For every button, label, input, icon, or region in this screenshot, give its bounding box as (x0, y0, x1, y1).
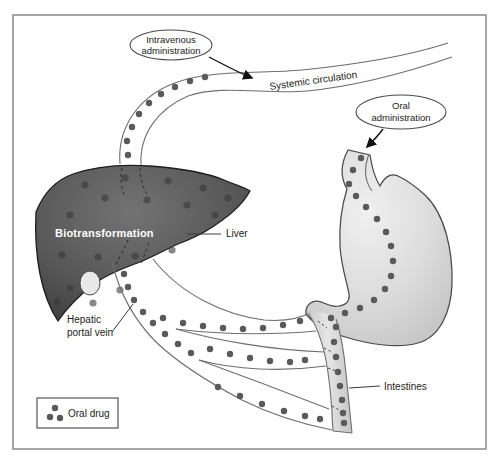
drug-dot (47, 414, 53, 420)
drug-dot (237, 393, 243, 399)
drug-dot (211, 211, 218, 218)
svg-text:portal vein: portal vein (67, 327, 113, 338)
drug-dot (317, 416, 323, 422)
drug-dot (267, 358, 273, 364)
drug-dot (101, 194, 108, 201)
drug-dot (287, 359, 293, 365)
drug-dot (160, 315, 166, 321)
drug-dot (89, 299, 96, 306)
drug-dot (140, 309, 146, 315)
drug-dot (333, 324, 339, 330)
drug-dot (328, 315, 334, 321)
drug-dot (358, 155, 364, 161)
drug-dot (150, 320, 156, 326)
drug-dot (58, 251, 65, 258)
svg-text:Intravenous: Intravenous (146, 34, 196, 45)
drug-dot (66, 211, 73, 218)
drug-dot (129, 124, 135, 130)
drug-dot (146, 100, 152, 106)
drug-dot (202, 74, 208, 80)
drug-dot (341, 420, 347, 426)
intravenous-administration-bubble: Intravenous administration (130, 30, 212, 60)
drug-dot (94, 253, 101, 260)
drug-dot (350, 167, 356, 173)
drug-dot (66, 284, 73, 291)
svg-text:administration: administration (371, 112, 430, 123)
drug-dot (220, 325, 226, 331)
drug-dot (346, 181, 352, 187)
drug-dot (125, 152, 131, 158)
drug-dot (57, 415, 63, 421)
drug-dot (136, 111, 142, 117)
svg-text:administration: administration (141, 45, 200, 56)
drug-dot (187, 78, 193, 84)
intestines-label: Intestines (384, 381, 427, 392)
drug-dot (388, 273, 394, 279)
drug-dot (207, 346, 213, 352)
drug-dot (259, 401, 265, 407)
oral-administration-bubble: Oral administration (356, 95, 446, 129)
drug-dot (53, 298, 60, 305)
drug-dot (180, 320, 186, 326)
drug-dot (175, 341, 181, 347)
drug-dot (390, 258, 396, 264)
drug-dot (158, 91, 164, 97)
drug-dot (363, 204, 369, 210)
drug-dot (374, 216, 380, 222)
drug-dot (339, 397, 345, 403)
drug-dot (335, 369, 341, 375)
drug-dot (125, 284, 131, 290)
drug-dot (302, 357, 308, 363)
drug-dot (188, 350, 194, 356)
drug-dot (52, 405, 58, 411)
drug-dot (172, 84, 178, 90)
drug-dot (131, 297, 137, 303)
drug-dot (200, 323, 206, 329)
drug-dot (388, 243, 394, 249)
drug-dot (357, 305, 363, 311)
drug-dot (143, 196, 150, 203)
drug-dot (260, 325, 266, 331)
drug-dot (281, 408, 287, 414)
drug-dot (227, 351, 233, 357)
drug-dot (337, 383, 343, 389)
drug-dot (224, 194, 231, 201)
drug-dot (240, 326, 246, 332)
drug-dot (81, 181, 88, 188)
legend-box: Oral drug (37, 398, 118, 428)
first-pass-metabolism-diagram: Biotransformation Liver Intestines He (0, 0, 498, 471)
drug-dot (297, 318, 303, 324)
drug-dot (131, 252, 138, 259)
drug-dot (162, 331, 168, 337)
drug-dot (340, 410, 346, 416)
biotransformation-label: Biotransformation (55, 227, 154, 239)
drug-dot (333, 354, 339, 360)
gallbladder-shape (80, 271, 100, 295)
drug-dot (121, 174, 128, 181)
drug-dot (215, 384, 221, 390)
drug-dot (331, 339, 337, 345)
drug-dot (383, 229, 389, 235)
drug-dot (199, 184, 206, 191)
drug-dot (247, 355, 253, 361)
drug-dot (280, 322, 286, 328)
drug-dot (183, 201, 190, 208)
svg-text:Oral: Oral (392, 100, 410, 111)
drug-dot (164, 177, 171, 184)
drug-dot (302, 413, 308, 419)
legend-label: Oral drug (68, 408, 110, 419)
drug-dot (168, 246, 175, 253)
svg-text:Hepatic: Hepatic (67, 314, 101, 325)
drug-dot (342, 310, 348, 316)
drug-dot (121, 271, 127, 277)
drug-dot (124, 138, 130, 144)
drug-dot (353, 193, 359, 199)
drug-dot (382, 286, 388, 292)
drug-dot (371, 297, 377, 303)
liver-label: Liver (226, 228, 248, 239)
